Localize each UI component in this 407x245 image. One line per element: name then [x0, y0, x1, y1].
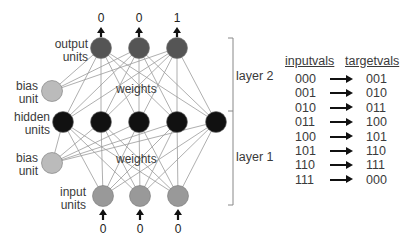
- output-value: 0: [133, 11, 145, 25]
- input-val: 011: [295, 115, 315, 129]
- layer-bracket: [228, 38, 233, 205]
- target-val: 011: [366, 101, 386, 115]
- table-row: 100101: [285, 130, 405, 144]
- bias-unit: [42, 153, 63, 174]
- output-value: 0: [95, 11, 107, 25]
- bias-unit: [42, 81, 63, 102]
- arrow-up-icon: [136, 209, 144, 220]
- input-unit: [168, 186, 189, 207]
- arrow-right-icon: [330, 179, 350, 181]
- hidden-unit: [206, 112, 227, 133]
- target-val: 111: [366, 158, 385, 172]
- weights-bottom-label: weights: [116, 153, 157, 166]
- arrow-up-icon: [99, 209, 107, 220]
- layer2-label: layer 2: [236, 70, 274, 83]
- target-val: 001: [366, 72, 387, 86]
- hidden-unit: [167, 112, 188, 133]
- layer1-label: layer 1: [236, 151, 274, 164]
- input-value: 0: [172, 222, 184, 236]
- arrow-right-icon: [330, 121, 350, 123]
- table-row: 111000: [285, 173, 405, 187]
- table-row: 011100: [285, 115, 405, 129]
- table-row: 101110: [285, 144, 405, 158]
- header-targetvals: targetvals: [345, 54, 399, 68]
- table-row: 110111: [285, 158, 405, 172]
- input-val: 100: [295, 130, 316, 144]
- output-unit: [129, 38, 150, 59]
- input-unit: [93, 186, 114, 207]
- hidden-unit: [53, 112, 74, 133]
- target-val: 110: [366, 144, 386, 158]
- arrow-up-icon: [174, 209, 182, 220]
- bias-unit-top-label: bias unit: [12, 80, 38, 106]
- hidden-unit: [129, 112, 150, 133]
- input-value: 0: [134, 222, 146, 236]
- target-val: 010: [366, 86, 387, 100]
- arrow-up-icon: [135, 27, 143, 37]
- weight-edge: [177, 48, 216, 122]
- output-unit: [167, 38, 188, 59]
- weights-top-label: weights: [116, 83, 157, 96]
- output-units-label: output units: [38, 38, 88, 64]
- input-val: 001: [295, 86, 316, 100]
- input-value: 0: [97, 222, 109, 236]
- arrow-right-icon: [330, 136, 350, 138]
- target-val: 100: [366, 115, 387, 129]
- arrow-right-icon: [330, 107, 350, 109]
- target-val: 000: [366, 173, 387, 187]
- input-val: 000: [295, 72, 316, 86]
- input-val: 110: [295, 158, 315, 172]
- table-row: 010011: [285, 101, 405, 115]
- table-row: 000001: [285, 72, 405, 86]
- arrow-up-icon: [97, 27, 105, 37]
- header-inputvals: inputvals: [285, 54, 334, 68]
- target-val: 101: [366, 130, 387, 144]
- table-row: 001010: [285, 86, 405, 100]
- input-val: 010: [295, 101, 316, 115]
- arrow-right-icon: [330, 92, 350, 94]
- hidden-unit: [91, 112, 112, 133]
- input-units-label: input units: [48, 186, 86, 212]
- arrow-up-icon: [173, 27, 181, 37]
- bias-unit-bottom-label: bias unit: [12, 152, 38, 178]
- input-val: 101: [295, 144, 316, 158]
- input-unit: [130, 186, 151, 207]
- arrow-right-icon: [330, 78, 350, 80]
- arrow-right-icon: [330, 150, 350, 152]
- weight-edge: [178, 122, 216, 196]
- output-value: 1: [171, 11, 183, 25]
- hidden-units-label: hidden units: [4, 111, 50, 137]
- output-unit: [91, 38, 112, 59]
- arrow-right-icon: [330, 164, 350, 166]
- input-val: 111: [295, 173, 314, 187]
